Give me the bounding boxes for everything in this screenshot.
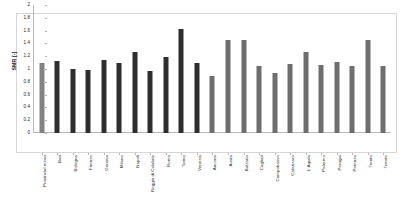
x-tick-label: Catanzaro bbox=[290, 155, 295, 176]
x-label-slot: Provincial mean bbox=[34, 155, 50, 213]
x-label-slot: Reggio di Calabria bbox=[143, 155, 159, 213]
bar-slot bbox=[282, 5, 298, 133]
x-label-slot: Firenze bbox=[81, 155, 97, 213]
x-label-slot: Aosta bbox=[220, 155, 236, 213]
bar-slot bbox=[236, 5, 252, 133]
y-tick-label: 0.6 bbox=[14, 91, 30, 99]
x-tick-label: Reggio di Calabria bbox=[150, 155, 155, 192]
x-label-slot: Milano bbox=[112, 155, 128, 213]
bar-slot bbox=[220, 5, 236, 133]
bar bbox=[257, 66, 262, 133]
x-label-slot: L'Aquila bbox=[298, 155, 314, 213]
bar-slot bbox=[189, 5, 205, 133]
bar-slot bbox=[174, 5, 190, 133]
x-label-slot: Venezia bbox=[189, 155, 205, 213]
x-tick-label: Venezia bbox=[197, 155, 202, 171]
bar bbox=[365, 40, 370, 133]
bar bbox=[226, 40, 231, 133]
y-tick-label: 1 bbox=[14, 65, 30, 73]
y-tick-label: 0.8 bbox=[14, 78, 30, 86]
x-tick-label: Aosta bbox=[228, 155, 233, 166]
x-tick-label: Bari bbox=[57, 155, 62, 163]
bar bbox=[179, 29, 184, 133]
x-tick-label: Campobasso bbox=[275, 155, 280, 181]
bar-slot bbox=[251, 5, 267, 133]
y-tick-label: 1.8 bbox=[14, 14, 30, 22]
x-tick-label: Potenza bbox=[352, 155, 357, 171]
plot-area bbox=[34, 5, 391, 133]
x-tick-label: Genova bbox=[104, 155, 109, 171]
bar-slot bbox=[143, 5, 159, 133]
bar-slot bbox=[205, 5, 221, 133]
bar-slot bbox=[96, 5, 112, 133]
bar bbox=[55, 61, 60, 133]
bar-slot bbox=[34, 5, 50, 133]
bar bbox=[86, 70, 91, 133]
x-label-slot: Campobasso bbox=[267, 155, 283, 213]
x-tick-label: Palermo bbox=[321, 155, 326, 172]
bar bbox=[350, 66, 355, 133]
bar bbox=[241, 40, 246, 133]
x-label-slot: Palermo bbox=[313, 155, 329, 213]
x-tick-label: Trieste bbox=[383, 155, 388, 169]
bar bbox=[272, 73, 277, 133]
bar bbox=[117, 63, 122, 133]
bar bbox=[39, 63, 44, 133]
x-label-slot: Perugia bbox=[329, 155, 345, 213]
bar-slot bbox=[158, 5, 174, 133]
bar-slot bbox=[313, 5, 329, 133]
x-tick-label: Roma bbox=[166, 155, 171, 167]
bar bbox=[163, 57, 168, 133]
bar-slot bbox=[360, 5, 376, 133]
bar-slot bbox=[127, 5, 143, 133]
x-tick-label: Bolzano bbox=[244, 155, 249, 171]
x-label-slot: Trento bbox=[360, 155, 376, 213]
x-label-slot: Ancona bbox=[205, 155, 221, 213]
bar bbox=[194, 63, 199, 133]
x-label-slot: Catanzaro bbox=[282, 155, 298, 213]
bar-slot bbox=[329, 5, 345, 133]
x-label-slot: Bari bbox=[50, 155, 66, 213]
x-label-slot: Bologna bbox=[65, 155, 81, 213]
x-tick-label: Napoli bbox=[135, 155, 140, 168]
y-tick-mark bbox=[45, 133, 47, 134]
bar bbox=[319, 65, 324, 133]
x-tick-label: Milano bbox=[119, 155, 124, 168]
x-tick-label: Torino bbox=[181, 155, 186, 167]
x-label-slot: Bolzano bbox=[236, 155, 252, 213]
x-tick-label: Firenze bbox=[88, 155, 93, 170]
bar-slot bbox=[267, 5, 283, 133]
x-tick-label: L'Aquila bbox=[306, 155, 311, 171]
x-label-slot: Genova bbox=[96, 155, 112, 213]
x-tick-label: Perugia bbox=[337, 155, 342, 170]
x-label-slot: Cagliari bbox=[251, 155, 267, 213]
y-tick-label: 1.6 bbox=[14, 27, 30, 35]
bar-slot bbox=[112, 5, 128, 133]
bar bbox=[288, 64, 293, 133]
y-tick-label: 1.2 bbox=[14, 52, 30, 60]
y-tick-label: 1.4 bbox=[14, 39, 30, 47]
bar-slot bbox=[375, 5, 391, 133]
x-label-slot: Napoli bbox=[127, 155, 143, 213]
y-tick-label: 0.2 bbox=[14, 116, 30, 124]
bar bbox=[148, 71, 153, 133]
bar-slot bbox=[81, 5, 97, 133]
bar bbox=[70, 69, 75, 133]
y-tick-label: 0.4 bbox=[14, 103, 30, 111]
chart-figure: SMR [-] 00.20.40.60.811.21.41.61.82 Prov… bbox=[0, 0, 413, 213]
bar-slot bbox=[298, 5, 314, 133]
x-label-slot: Roma bbox=[158, 155, 174, 213]
y-tick-label: 2 bbox=[14, 1, 30, 9]
bar bbox=[132, 52, 137, 133]
bar-slot bbox=[344, 5, 360, 133]
x-label-slot: Torino bbox=[174, 155, 190, 213]
x-tick-label: Trento bbox=[368, 155, 373, 168]
y-tick-label: 0 bbox=[14, 129, 30, 137]
bar bbox=[303, 52, 308, 133]
bar bbox=[210, 76, 215, 133]
bar bbox=[101, 60, 106, 133]
x-tick-label: Provincial mean bbox=[42, 155, 47, 187]
bar-slot bbox=[65, 5, 81, 133]
x-tick-label: Ancona bbox=[212, 155, 217, 170]
x-label-slot: Potenza bbox=[344, 155, 360, 213]
